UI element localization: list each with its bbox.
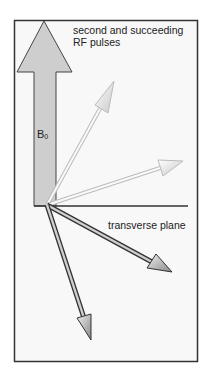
title-line-1: second and succeeding — [73, 24, 203, 36]
diagram-title: second and succeeding RF pulses — [73, 24, 203, 48]
title-line-2: RF pulses — [73, 36, 203, 48]
transverse-plane-label: transverse plane — [108, 219, 186, 231]
b0-subscript: 0 — [44, 133, 48, 140]
b0-label: B0 — [37, 128, 48, 143]
diagram-canvas — [0, 0, 207, 372]
